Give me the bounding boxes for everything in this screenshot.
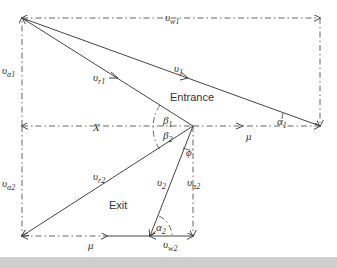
vw2-label: υw2 — [163, 238, 177, 253]
entrance-label: Entrance — [170, 91, 214, 103]
vr2-label: υr2 — [93, 170, 105, 185]
va2-left-label: υα2 — [2, 177, 15, 192]
vr1-vector — [22, 18, 193, 126]
v2-label: υ2 — [157, 176, 166, 191]
x-label: X — [92, 121, 101, 133]
beta-arc — [153, 105, 160, 150]
v1-label: υ1 — [174, 62, 183, 77]
va1-label: υα1 — [2, 64, 15, 79]
vr1-arrowhead — [109, 72, 118, 78]
vr1-label: υr1 — [93, 71, 105, 86]
alpha2-label: α2 — [156, 221, 166, 236]
velocity-triangle-diagram: υw1 υα1 υr1 υ1 Entrance α1 β1 β2 X μ ϕ υ… — [0, 0, 337, 268]
beta1-label: β1 — [162, 114, 172, 129]
bottom-gray-band — [0, 257, 337, 268]
vw1-label: υw1 — [165, 11, 179, 26]
mu-top-label: μ — [245, 130, 252, 142]
v1-vector — [22, 18, 320, 126]
exit-label: Exit — [109, 199, 127, 211]
mu-bottom-label: μ — [87, 239, 94, 251]
phi-label: ϕ — [186, 146, 192, 158]
beta2-label: β2 — [162, 129, 172, 144]
va2-right-label: υα2 — [187, 176, 200, 191]
alpha1-label: α1 — [277, 115, 287, 130]
vr2-vector — [22, 126, 193, 236]
